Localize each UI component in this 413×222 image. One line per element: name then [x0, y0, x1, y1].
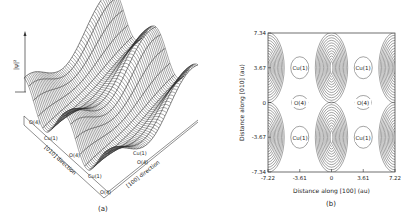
x-tick: -7.22: [261, 175, 275, 181]
x-axis-label: Distance along [100] (au): [293, 187, 370, 195]
contour-lines: [252, 33, 411, 173]
site-label: O(4): [29, 119, 40, 125]
plot-frame: [268, 33, 395, 172]
site-label: O(4): [137, 159, 148, 165]
surface-plot-svg: |ψ|² O(4) Cu(1) O(4) Cu(1) O(4) Cu(1) O(…: [0, 0, 205, 222]
y-tick: 3.67: [254, 65, 267, 71]
base-frame: [24, 116, 198, 198]
x-tick: 7.22: [389, 175, 401, 181]
x-tick: 3.61: [357, 175, 369, 181]
z-axis-arrow-icon: [24, 31, 27, 36]
site-label: O(4): [100, 189, 111, 195]
panel-b-contour-plot: 7.34 3.67 0 -3.67 -7.34 -7.22 -3.61 0 3.…: [220, 0, 413, 222]
site-label: O(4): [294, 100, 306, 106]
caption-b: (b): [326, 200, 336, 208]
site-label: O(4): [357, 100, 369, 106]
site-label: Cu(1): [355, 65, 370, 71]
contour-plot-svg: 7.34 3.67 0 -3.67 -7.34 -7.22 -3.61 0 3.…: [220, 0, 413, 222]
panel-a-surface-plot: |ψ|² O(4) Cu(1) O(4) Cu(1) O(4) Cu(1) O(…: [0, 0, 205, 222]
caption-a: (a): [98, 205, 108, 213]
site-label: Cu(1): [292, 135, 307, 141]
x-tick: 0: [330, 175, 334, 181]
site-label: Cu(1): [292, 65, 307, 71]
site-label: Cu(1): [44, 135, 58, 141]
x-tick: -3.61: [293, 175, 307, 181]
y-tick: 0: [263, 100, 267, 106]
site-label: Cu(1): [133, 150, 147, 156]
axis-ticks: [268, 33, 395, 172]
site-label: Cu(1): [355, 135, 370, 141]
site-label: Cu(1): [88, 173, 102, 179]
site-label: O(4): [69, 152, 80, 158]
surface-wireframe: [24, 0, 198, 170]
y-tick: -3.67: [252, 134, 267, 140]
y-axis-label: Distance along [010] (au): [238, 64, 246, 141]
y-tick: 7.34: [254, 30, 267, 36]
z-axis-label: |ψ|²: [12, 59, 20, 70]
